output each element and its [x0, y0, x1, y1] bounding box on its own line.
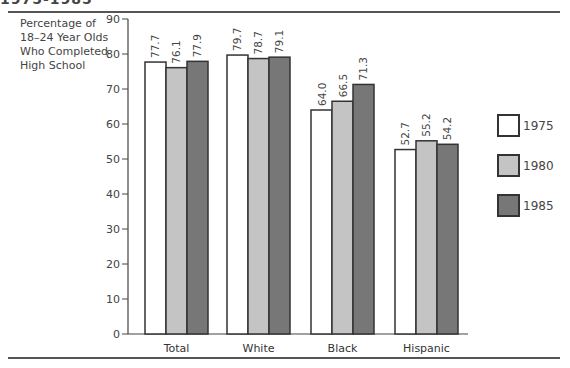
y-tick-label: 40 — [106, 188, 120, 201]
bar-1980-white — [248, 59, 269, 334]
data-label: 77.7 — [150, 35, 162, 58]
bar-chart: 010203040506070809077.776.177.9Total79.7… — [0, 0, 570, 368]
bar-1985-black — [353, 84, 374, 334]
bar-1985-white — [269, 57, 290, 334]
y-tick-label: 70 — [106, 83, 120, 96]
legend-swatch-1985 — [497, 194, 520, 217]
y-tick-label: 30 — [106, 223, 120, 236]
bar-1975-total — [145, 62, 166, 334]
y-tick-label: 60 — [106, 118, 120, 131]
bar-1980-hispanic — [416, 141, 437, 334]
legend-label: 1975 — [523, 119, 554, 133]
y-tick-label: 80 — [106, 48, 120, 61]
legend-swatch-1975 — [497, 114, 520, 137]
legend-label: 1985 — [523, 199, 554, 213]
data-label: 76.1 — [171, 40, 183, 63]
y-tick-label: 20 — [106, 258, 120, 271]
legend: 1975 1980 1985 — [497, 113, 554, 233]
data-label: 77.9 — [192, 34, 204, 57]
legend-swatch-1980 — [497, 154, 520, 177]
legend-item-1985: 1985 — [497, 193, 554, 218]
data-label: 78.7 — [253, 31, 265, 54]
legend-item-1980: 1980 — [497, 153, 554, 178]
data-label: 54.2 — [442, 117, 454, 140]
data-label: 55.2 — [421, 113, 433, 136]
bar-1980-black — [332, 101, 353, 334]
bar-1980-total — [166, 68, 187, 334]
bar-1975-white — [227, 55, 248, 334]
x-category-label: Total — [163, 342, 190, 355]
bar-1985-total — [187, 61, 208, 334]
bar-1975-hispanic — [395, 150, 416, 334]
data-label: 66.5 — [337, 74, 349, 97]
bar-1975-black — [311, 110, 332, 334]
y-tick-label: 10 — [106, 293, 120, 306]
bar-1985-hispanic — [437, 144, 458, 334]
legend-label: 1980 — [523, 159, 554, 173]
y-tick-label: 90 — [106, 13, 120, 26]
data-label: 79.1 — [274, 30, 286, 53]
data-label: 64.0 — [316, 83, 328, 106]
data-label: 79.7 — [232, 28, 244, 51]
legend-item-1975: 1975 — [497, 113, 554, 138]
y-tick-label: 50 — [106, 153, 120, 166]
x-category-label: White — [243, 342, 275, 355]
x-category-label: Black — [328, 342, 358, 355]
x-category-label: Hispanic — [403, 342, 450, 355]
data-label: 52.7 — [400, 122, 412, 145]
y-tick-label: 0 — [113, 328, 120, 341]
data-label: 71.3 — [358, 57, 370, 80]
